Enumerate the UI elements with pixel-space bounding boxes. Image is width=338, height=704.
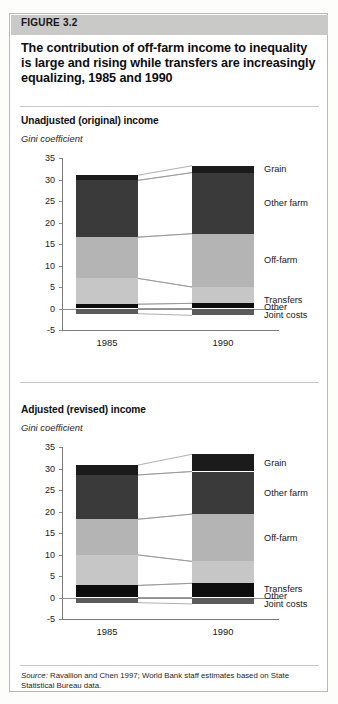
figure-page: FIGURE 3.2 The contribution of off-farm … — [0, 0, 338, 704]
legend-label-joint_costs: Joint costs — [264, 599, 307, 609]
plot-area-0: -50510152025303519851990GrainOther farmO… — [10, 148, 329, 363]
legend-label-joint_costs: Joint costs — [264, 310, 307, 320]
panel-title-1: Adjusted (revised) income — [21, 404, 146, 415]
divider-bottom — [20, 665, 319, 666]
legend-label-grain: Grain — [264, 164, 286, 174]
panel-subtitle-1: Gini coefficient — [21, 422, 83, 433]
plot-area-1: -50510152025303519851990GrainOther farmO… — [10, 437, 329, 652]
panel-title-0: Unadjusted (original) income — [21, 115, 159, 126]
panel-subtitle-0: Gini coefficient — [21, 133, 83, 144]
legend-label-other_farm: Other farm — [264, 488, 308, 498]
figure-title: The contribution of off-farm income to i… — [21, 41, 317, 87]
legend-label-grain: Grain — [264, 458, 286, 468]
connector-lines-1 — [10, 437, 329, 652]
legend-label-other_farm: Other farm — [264, 198, 308, 208]
legend-label-off_farm: Off-farm — [264, 255, 298, 265]
figure-number-label: FIGURE 3.2 — [21, 17, 77, 28]
legend-label-off_farm: Off-farm — [264, 533, 298, 543]
source-note: Source: Ravallion and Chen 1997; World B… — [21, 671, 313, 691]
figure-box: FIGURE 3.2 The contribution of off-farm … — [9, 13, 328, 692]
source-label: Source: — [21, 671, 48, 680]
divider-middle — [20, 382, 319, 383]
source-text: Ravallion and Chen 1997; World Bank staf… — [21, 671, 289, 690]
divider-top — [20, 106, 319, 107]
